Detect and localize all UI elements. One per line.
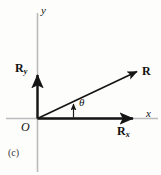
vector-diagram-canvas — [0, 0, 161, 175]
vector-ry-label: Ry — [15, 62, 27, 74]
vector-r-label: R — [142, 65, 151, 77]
vector-r-arrow — [38, 72, 138, 119]
vector-rx-label-subscript: x — [126, 130, 130, 139]
vector-rx-label-text: R — [117, 124, 126, 138]
vector-ry-label-text: R — [15, 61, 24, 75]
figure-caption: (c) — [8, 148, 19, 158]
vector-ry-label-subscript: y — [24, 67, 28, 76]
x-axis-label: x — [146, 108, 151, 119]
vector-rx-label: Rx — [117, 125, 130, 137]
angle-theta-label: θ — [79, 97, 84, 108]
y-axis-label: y — [41, 5, 46, 16]
origin-label: O — [21, 121, 30, 133]
vector-diagram-figure: y x O R Rx Ry θ (c) — [0, 0, 161, 175]
vector-r-label-text: R — [142, 64, 151, 78]
